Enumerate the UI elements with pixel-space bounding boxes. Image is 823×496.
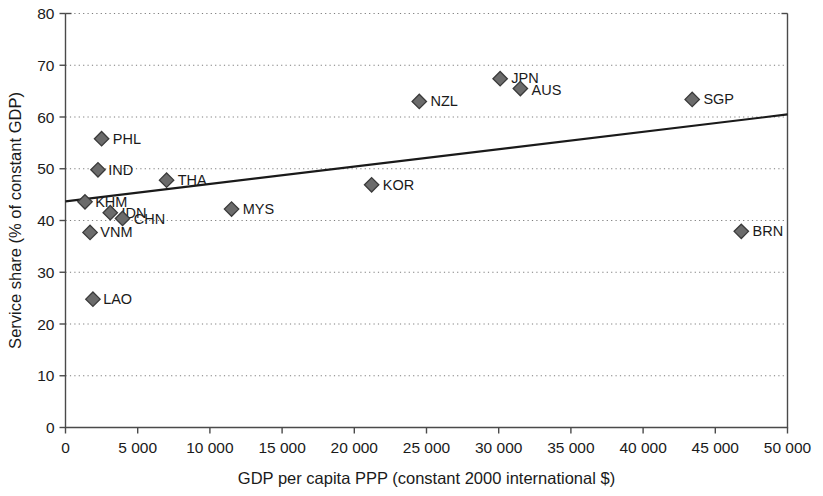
y-tick-label-20: 20 bbox=[37, 316, 55, 333]
grid-lines bbox=[66, 14, 788, 376]
x-tick-label-10000: 10 000 bbox=[186, 439, 234, 456]
x-tick-label-30000: 30 000 bbox=[475, 439, 523, 456]
plot-svg: 05 00010 00015 00020 00025 00030 00035 0… bbox=[0, 0, 823, 496]
point-label-ind: IND bbox=[108, 162, 133, 178]
diamond-marker-icon bbox=[224, 202, 238, 216]
x-tick-label-5000: 5 000 bbox=[118, 439, 157, 456]
y-tick-label-40: 40 bbox=[37, 212, 55, 229]
data-point-aus: AUS bbox=[513, 81, 561, 97]
diamond-marker-icon bbox=[94, 132, 108, 146]
diamond-marker-icon bbox=[364, 178, 378, 192]
x-tick-label-0: 0 bbox=[61, 439, 70, 456]
x-tick-label-40000: 40 000 bbox=[619, 439, 667, 456]
data-point-phl: PHL bbox=[94, 131, 141, 147]
data-point-mys: MYS bbox=[224, 201, 274, 217]
x-tick-label-20000: 20 000 bbox=[331, 439, 379, 456]
data-point-lao: LAO bbox=[86, 291, 132, 307]
data-point-kor: KOR bbox=[364, 177, 414, 193]
diamond-marker-icon bbox=[493, 72, 507, 86]
point-label-aus: AUS bbox=[532, 82, 562, 98]
diamond-marker-icon bbox=[159, 173, 173, 187]
data-point-vnm: VNM bbox=[83, 224, 133, 240]
point-label-sgp: SGP bbox=[703, 91, 734, 107]
diamond-marker-icon bbox=[86, 292, 100, 306]
point-label-phl: PHL bbox=[113, 131, 141, 147]
point-label-kor: KOR bbox=[383, 177, 414, 193]
point-label-tha: THA bbox=[178, 172, 207, 188]
data-point-tha: THA bbox=[159, 172, 207, 188]
y-tick-label-0: 0 bbox=[46, 419, 55, 436]
y-tick-label-50: 50 bbox=[37, 160, 55, 177]
x-tick-label-45000: 45 000 bbox=[692, 439, 740, 456]
diamond-marker-icon bbox=[412, 94, 426, 108]
x-tick-label-15000: 15 000 bbox=[258, 439, 306, 456]
y-axis-ticks: 01020304050607080 bbox=[37, 5, 65, 436]
point-label-vnm: VNM bbox=[100, 224, 132, 240]
scatter-chart-figure: 05 00010 00015 00020 00025 00030 00035 0… bbox=[0, 0, 823, 496]
y-tick-label-30: 30 bbox=[37, 264, 55, 281]
diamond-marker-icon bbox=[78, 195, 92, 209]
data-point-chn: CHN bbox=[115, 211, 165, 227]
data-point-sgp: SGP bbox=[685, 91, 734, 107]
y-tick-label-60: 60 bbox=[37, 109, 55, 126]
point-label-lao: LAO bbox=[103, 291, 132, 307]
x-axis-ticks: 05 00010 00015 00020 00025 00030 00035 0… bbox=[61, 428, 811, 456]
y-tick-label-70: 70 bbox=[37, 57, 55, 74]
data-point-nzl: NZL bbox=[412, 93, 458, 109]
x-tick-label-25000: 25 000 bbox=[403, 439, 451, 456]
data-point-brn: BRN bbox=[734, 223, 783, 239]
data-point-khm: KHM bbox=[78, 194, 128, 210]
x-axis-title: GDP per capita PPP (constant 2000 intern… bbox=[238, 469, 615, 487]
y-axis-title: Service share (% of constant GDP) bbox=[6, 92, 24, 349]
point-label-brn: BRN bbox=[752, 223, 783, 239]
y-tick-label-80: 80 bbox=[37, 5, 55, 22]
diamond-marker-icon bbox=[685, 92, 699, 106]
data-point-ind: IND bbox=[91, 162, 133, 178]
diamond-marker-icon bbox=[83, 225, 97, 239]
data-points: KHMLAOVNMPHLINDIDNCHNTHAMYSKORNZLJPNAUSS… bbox=[78, 70, 783, 307]
y-tick-label-10: 10 bbox=[37, 367, 55, 384]
trendline bbox=[66, 114, 788, 201]
trend-line-segment bbox=[66, 114, 788, 201]
point-label-nzl: NZL bbox=[430, 93, 457, 109]
point-label-chn: CHN bbox=[134, 211, 165, 227]
diamond-marker-icon bbox=[91, 163, 105, 177]
x-tick-label-35000: 35 000 bbox=[547, 439, 595, 456]
x-tick-label-50000: 50 000 bbox=[764, 439, 812, 456]
diamond-marker-icon bbox=[734, 224, 748, 238]
point-label-mys: MYS bbox=[243, 201, 274, 217]
